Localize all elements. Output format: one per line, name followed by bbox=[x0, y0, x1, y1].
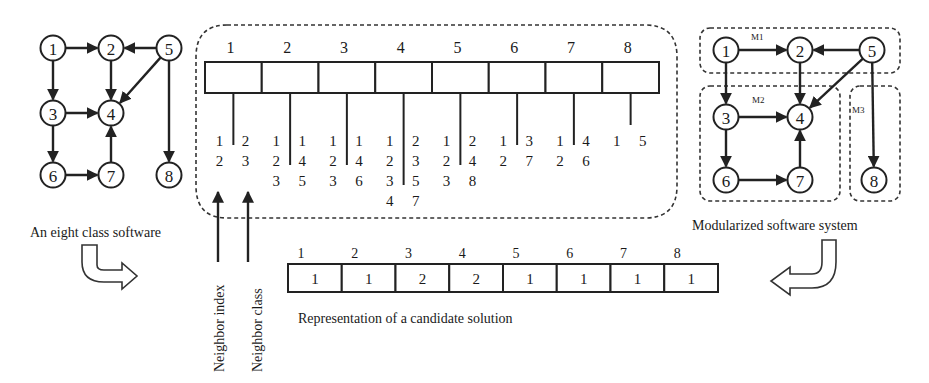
right-node-6[interactable]: 6 bbox=[714, 168, 739, 193]
right-node-5[interactable]: 5 bbox=[860, 38, 885, 63]
right-node-4[interactable]: 4 bbox=[788, 105, 813, 130]
node-label: 7 bbox=[107, 167, 116, 186]
right-node-7[interactable]: 7 bbox=[788, 168, 813, 193]
module-m2-label: M2 bbox=[752, 95, 765, 105]
left-node-3[interactable]: 3 bbox=[41, 101, 66, 126]
neighbor-class-label: Neighbor class bbox=[250, 288, 265, 372]
neighbor-class-value: 2 bbox=[242, 133, 250, 149]
solution-index-label: 6 bbox=[566, 246, 573, 261]
class-index-label: 3 bbox=[340, 39, 348, 56]
module-assignment-value: 1 bbox=[687, 271, 695, 287]
node-label: 4 bbox=[796, 109, 805, 128]
neighbor-class-value: 4 bbox=[355, 153, 363, 169]
node-label: 2 bbox=[796, 42, 805, 61]
neighbor-index-value: 2 bbox=[443, 153, 451, 169]
neighbor-class-value: 6 bbox=[355, 173, 363, 189]
class-cell bbox=[319, 62, 376, 93]
module-assignment-value: 1 bbox=[311, 271, 319, 287]
node-label: 8 bbox=[165, 167, 174, 186]
node-label: 1 bbox=[722, 42, 731, 61]
solution-index-label: 7 bbox=[620, 246, 627, 261]
curved-arrow-right-icon bbox=[82, 245, 137, 289]
left-node-7[interactable]: 7 bbox=[99, 163, 124, 188]
neighbor-class-value: 8 bbox=[469, 173, 477, 189]
left-node-5[interactable]: 5 bbox=[157, 36, 182, 61]
left-node-6[interactable]: 6 bbox=[41, 163, 66, 188]
node-label: 6 bbox=[722, 172, 731, 191]
class-cell bbox=[375, 62, 432, 93]
solution-index-label: 8 bbox=[674, 246, 681, 261]
node-label: 3 bbox=[722, 109, 731, 128]
right-node-8[interactable]: 8 bbox=[862, 168, 887, 193]
neighbor-index-value: 2 bbox=[386, 153, 394, 169]
class-cell bbox=[546, 62, 603, 93]
neighbor-index-value: 1 bbox=[443, 133, 451, 149]
edge-5-to-8-arrow bbox=[872, 62, 874, 166]
right-node-1[interactable]: 1 bbox=[714, 38, 739, 63]
node-label: 3 bbox=[49, 105, 58, 124]
node-label: 5 bbox=[868, 42, 877, 61]
class-cell bbox=[602, 62, 659, 93]
class-cell bbox=[205, 62, 262, 93]
node-label: 7 bbox=[796, 172, 805, 191]
neighbor-index-value: 1 bbox=[613, 133, 621, 149]
neighbor-index-value: 1 bbox=[329, 133, 337, 149]
neighbor-index-value: 3 bbox=[272, 173, 280, 189]
module-m1-label: M1 bbox=[751, 32, 764, 42]
neighbor-index-value: 3 bbox=[443, 173, 451, 189]
neighbor-class-value: 5 bbox=[298, 173, 306, 189]
neighbor-class-value: 2 bbox=[412, 133, 420, 149]
neighbor-index-value: 4 bbox=[386, 193, 394, 209]
module-m3-label: M3 bbox=[852, 105, 865, 115]
solution-index-label: 5 bbox=[512, 246, 519, 261]
module-assignment-value: 1 bbox=[526, 271, 534, 287]
left-node-2[interactable]: 2 bbox=[99, 36, 124, 61]
module-assignment-value: 1 bbox=[634, 271, 642, 287]
neighbor-array-frame bbox=[196, 25, 677, 218]
class-index-label: 5 bbox=[453, 39, 461, 56]
neighbor-class-value: 1 bbox=[355, 133, 363, 149]
class-index-label: 2 bbox=[283, 39, 291, 56]
neighbor-class-value: 7 bbox=[525, 153, 533, 169]
node-label: 4 bbox=[107, 105, 116, 124]
neighbor-index-label: Neighbor index bbox=[212, 285, 227, 372]
neighbor-index-value: 1 bbox=[216, 133, 224, 149]
class-nodes: 12534678 bbox=[41, 36, 182, 188]
right-node-3[interactable]: 3 bbox=[714, 105, 739, 130]
neighbor-class-value: 2 bbox=[469, 133, 477, 149]
class-index-label: 6 bbox=[510, 39, 518, 56]
class-index-array: 12345678 bbox=[205, 39, 659, 93]
diagram-canvas: 12534678 An eight class software 1234567… bbox=[0, 0, 929, 383]
neighbor-index-value: 2 bbox=[556, 153, 564, 169]
node-label: 1 bbox=[49, 40, 58, 59]
module-assignment-value: 2 bbox=[419, 271, 427, 287]
left-node-8[interactable]: 8 bbox=[157, 163, 182, 188]
neighbor-lists: 1223123145123146123423571232481237124615 bbox=[216, 93, 647, 209]
class-cell bbox=[489, 62, 546, 93]
neighbor-class-value: 3 bbox=[525, 133, 533, 149]
neighbor-class-value: 4 bbox=[469, 153, 477, 169]
left-graph-caption: An eight class software bbox=[30, 225, 161, 240]
module-assignment-value: 2 bbox=[472, 271, 480, 287]
neighbor-class-value: 7 bbox=[412, 193, 420, 209]
solution-index-label: 3 bbox=[405, 246, 412, 261]
class-index-label: 8 bbox=[624, 39, 632, 56]
neighbor-index-value: 2 bbox=[272, 153, 280, 169]
right-node-2[interactable]: 2 bbox=[788, 38, 813, 63]
neighbor-index-value: 2 bbox=[216, 153, 224, 169]
left-node-1[interactable]: 1 bbox=[41, 36, 66, 61]
class-cell bbox=[432, 62, 489, 93]
neighbor-class-value: 4 bbox=[582, 133, 590, 149]
neighbor-class-value: 6 bbox=[582, 153, 590, 169]
class-index-label: 1 bbox=[226, 39, 234, 56]
neighbor-class-value: 3 bbox=[412, 153, 420, 169]
node-label: 8 bbox=[870, 172, 879, 191]
neighbor-class-value: 4 bbox=[298, 153, 306, 169]
neighbor-class-value: 5 bbox=[639, 133, 647, 149]
modularized-software-graph: 12534678 bbox=[714, 38, 887, 193]
neighbor-index-value: 1 bbox=[499, 133, 507, 149]
node-label: 6 bbox=[49, 167, 58, 186]
module-assignment-value: 1 bbox=[365, 271, 373, 287]
neighbor-index-value: 2 bbox=[329, 153, 337, 169]
left-node-4[interactable]: 4 bbox=[99, 101, 124, 126]
